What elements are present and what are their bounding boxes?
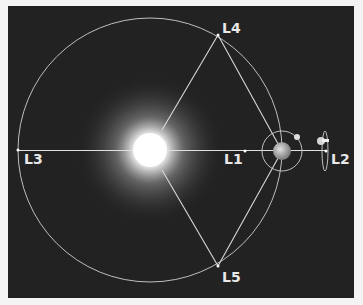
- l3-point: [17, 149, 20, 152]
- lagrange-diagram: L1 L2 L3 L4 L5: [0, 0, 363, 305]
- earth: [273, 142, 291, 160]
- l1-point: [244, 150, 247, 153]
- label-l3: L3: [24, 151, 43, 167]
- l2-point: [325, 150, 328, 153]
- label-l4: L4: [222, 20, 241, 36]
- moon: [294, 134, 300, 140]
- label-l1: L1: [224, 151, 243, 167]
- label-l5: L5: [222, 269, 241, 285]
- sun-core: [133, 133, 167, 167]
- l5-point: [217, 265, 220, 268]
- label-l2: L2: [331, 151, 350, 167]
- l4-point: [217, 34, 220, 37]
